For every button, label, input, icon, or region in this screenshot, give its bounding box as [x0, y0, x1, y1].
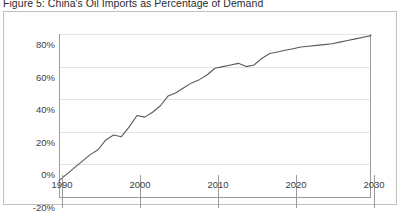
chart-frame: -20%0%20%40%60%80% 19902000201020202030	[3, 11, 397, 205]
figure-container: Figure 5: China's Oil Imports as Percent…	[0, 0, 404, 214]
y-tick-label: -20%	[33, 203, 55, 213]
y-tick-label: 0%	[41, 170, 55, 180]
y-tick-label: 40%	[36, 105, 55, 115]
y-tick-label: 60%	[36, 73, 55, 83]
x-tick-mark	[374, 175, 375, 208]
figure-caption: Figure 5: China's Oil Imports as Percent…	[3, 0, 399, 11]
gridline-y	[59, 197, 371, 198]
plot-area	[59, 34, 371, 197]
y-tick-label: 20%	[36, 138, 55, 148]
y-tick-label: 80%	[36, 40, 55, 50]
y-axis-tick-labels: -20%0%20%40%60%80%	[7, 23, 55, 214]
data-series-line	[59, 34, 371, 197]
